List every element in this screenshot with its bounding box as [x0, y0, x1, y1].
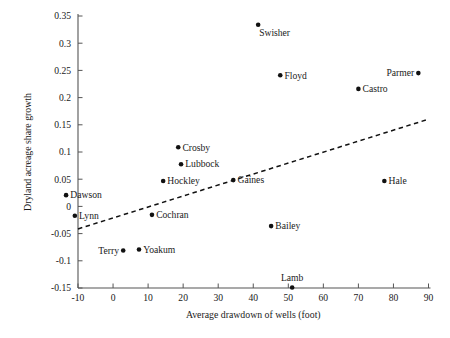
data-point-castro [356, 87, 361, 92]
y-tick-label: -0.1 [56, 255, 71, 266]
y-tick-label: 0.2 [59, 92, 71, 103]
data-point-gaines [231, 178, 236, 183]
x-tick-label: 0 [111, 292, 116, 303]
data-point-label-castro: Castro [363, 83, 388, 94]
x-tick-label: 80 [389, 292, 399, 303]
data-point-crosby [176, 145, 181, 150]
x-tick-label: 10 [143, 292, 153, 303]
data-point-label-swisher: Swisher [259, 27, 291, 38]
x-tick-label: 30 [213, 292, 223, 303]
data-point-label-gaines: Gaines [237, 174, 264, 185]
x-tick-label: -10 [72, 292, 85, 303]
data-point-terry [121, 248, 126, 253]
data-point-bailey [269, 224, 274, 229]
data-point-yoakum [137, 247, 142, 252]
data-point-parmer [416, 71, 421, 76]
data-point-hockley [161, 179, 166, 184]
y-tick-label: 0.15 [54, 119, 71, 130]
x-tick-label: 40 [248, 292, 258, 303]
x-tick-label: 50 [284, 292, 294, 303]
data-point-floyd [278, 73, 283, 78]
data-point-lynn [73, 213, 78, 218]
data-point-label-dawson: Dawson [70, 189, 102, 200]
chart-canvas: -100102030405060708090 0.350.30.250.20.1… [0, 0, 450, 338]
point-labels-group: SwisherFloydParmerCastroCrosbyLubbockHoc… [70, 27, 415, 283]
data-point-lamb [290, 285, 295, 290]
data-point-label-lynn: Lynn [79, 210, 99, 221]
y-axis-title: Dryland acreage share growth [22, 93, 33, 211]
y-tick-label: 0.35 [54, 10, 71, 21]
data-point-label-cochran: Cochran [156, 209, 189, 220]
y-tick-label: 0.1 [59, 146, 71, 157]
x-tick-group: -100102030405060708090 [72, 284, 434, 303]
x-axis-title: Average drawdown of wells (foot) [186, 309, 321, 321]
data-point-label-hale: Hale [389, 175, 407, 186]
data-point-label-lubbock: Lubbock [185, 158, 219, 169]
data-point-cochran [150, 213, 155, 218]
data-point-label-parmer: Parmer [386, 67, 415, 78]
y-tick-label: 0.3 [59, 38, 71, 49]
y-tick-label: 0.25 [54, 65, 71, 76]
x-tick-label: 90 [424, 292, 434, 303]
x-tick-label: 70 [354, 292, 364, 303]
data-point-hale [382, 179, 387, 184]
x-tick-label: 60 [319, 292, 329, 303]
y-tick-label: -0.05 [51, 228, 71, 239]
y-tick-label: 0.05 [54, 174, 71, 185]
data-point-label-bailey: Bailey [275, 220, 300, 231]
data-point-label-terry: Terry [98, 245, 119, 256]
x-tick-label: 20 [178, 292, 188, 303]
data-point-dawson [64, 193, 69, 198]
scatter-chart-figure: -100102030405060708090 0.350.30.250.20.1… [0, 0, 450, 338]
data-point-lubbock [179, 162, 184, 167]
data-point-label-floyd: Floyd [284, 70, 307, 81]
y-tick-label: -0.15 [51, 282, 71, 293]
y-tick-label: 0 [66, 201, 71, 212]
data-point-label-lamb: Lamb [281, 272, 304, 283]
data-point-label-hockley: Hockley [167, 175, 200, 186]
data-point-label-crosby: Crosby [182, 142, 210, 153]
axes-group [78, 14, 431, 288]
data-point-label-yoakum: Yoakum [143, 244, 176, 255]
